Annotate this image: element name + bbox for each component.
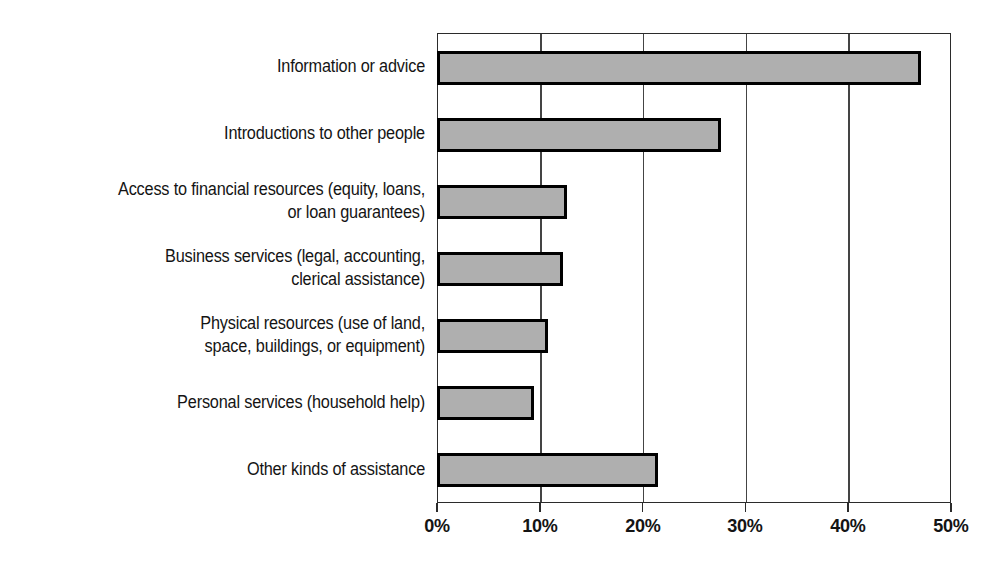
tick-mark	[539, 503, 541, 512]
category-label: Other kinds of assistance	[30, 458, 425, 481]
x-tick-label: 10%	[522, 515, 557, 537]
x-tick-label: 50%	[933, 515, 968, 537]
bar	[437, 319, 548, 353]
category-label: Physical resources (use of land, space, …	[30, 312, 425, 358]
tick-mark	[847, 503, 849, 512]
category-label: Information or advice	[30, 55, 425, 78]
category-label: Personal services (household help)	[30, 391, 425, 414]
bar	[437, 118, 721, 152]
category-label: Introductions to other people	[30, 122, 425, 145]
bar	[437, 51, 921, 85]
category-label: Business services (legal, accounting, cl…	[30, 245, 425, 291]
tick-mark	[745, 503, 747, 512]
bar	[437, 386, 534, 420]
category-labels: Information or adviceIntroductions to ot…	[0, 33, 425, 503]
bar	[437, 252, 563, 286]
x-tick-label: 0%	[424, 515, 450, 537]
x-tick-label: 40%	[831, 515, 866, 537]
tick-mark	[642, 503, 644, 512]
bars	[438, 34, 950, 502]
category-label: Access to financial resources (equity, l…	[30, 178, 425, 224]
tick-mark	[950, 503, 952, 512]
x-axis-tick-marks	[437, 503, 951, 512]
x-tick-label: 30%	[728, 515, 763, 537]
x-tick-label: 20%	[625, 515, 660, 537]
plot-area	[437, 33, 951, 503]
bar-chart: Information or adviceIntroductions to ot…	[0, 0, 995, 579]
tick-mark	[436, 503, 438, 512]
x-axis-tick-labels: 0%10%20%30%40%50%	[437, 515, 951, 545]
bar	[437, 453, 658, 487]
bar	[437, 185, 567, 219]
